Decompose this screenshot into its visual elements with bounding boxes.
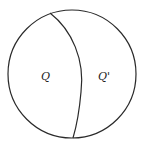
region-label-q: Q: [41, 70, 50, 83]
sphere-outline: [8, 10, 136, 138]
dividing-curve: [50, 13, 82, 138]
region-label-q-prime: Q': [98, 70, 110, 83]
diagram-canvas: Q Q': [0, 0, 142, 149]
